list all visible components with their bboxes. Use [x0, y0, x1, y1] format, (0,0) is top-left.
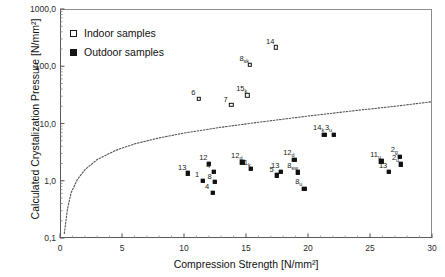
data-point-indoor[interactable] [274, 45, 278, 49]
data-point-outdoor[interactable] [399, 162, 403, 166]
data-point-label: 13 [379, 161, 387, 170]
data-point-label: 13 [178, 162, 186, 171]
data-point-outdoor[interactable] [210, 190, 214, 194]
data-point-label: 15k [236, 84, 247, 95]
data-point-outdoor[interactable] [332, 132, 336, 136]
open-square-icon [70, 30, 77, 37]
x-tick-label: 25 [365, 243, 374, 253]
x-axis-title: Compression Strength [N/mm²] [60, 258, 432, 270]
x-tick-label: 20 [303, 243, 312, 253]
x-tick-label: 30 [427, 243, 436, 253]
scatter-chart: 0,11,010,0100,01000,0 678sk1415k13112484… [0, 0, 445, 277]
data-point-label: 8 [207, 171, 211, 180]
data-point-indoor[interactable] [229, 103, 233, 107]
y-tick-label: 0,1 [44, 233, 56, 243]
data-point-label: 2u [392, 152, 399, 163]
data-point-outdoor[interactable] [302, 187, 306, 191]
legend-item-outdoor: Outdoor samples [70, 46, 164, 58]
x-tick-label: 15 [241, 243, 250, 253]
y-axis-tick-labels: 0,11,010,0100,01000,0 [0, 0, 56, 277]
data-point-label: 8sw [287, 161, 298, 172]
filled-square-icon [70, 49, 77, 56]
data-point-label: 12d [283, 148, 294, 159]
data-point-label: 7 [224, 94, 228, 103]
legend-label-indoor: Indoor samples [84, 27, 156, 39]
y-tick-label: 10,0 [39, 119, 56, 129]
data-point-label: 14 [266, 36, 274, 45]
data-point-label: 3u [325, 123, 332, 134]
data-point-label: 1 [195, 170, 199, 179]
y-axis-title: Calculated Crystalization Pressure [N/mm… [29, 0, 41, 239]
data-point-label: 8sk [239, 53, 249, 64]
data-point-label: 11k [240, 157, 251, 168]
legend: Indoor samples Outdoor samples [70, 27, 164, 65]
data-point-label: 11u [370, 149, 381, 160]
data-point-outdoor[interactable] [279, 169, 283, 173]
data-point-label: 4 [205, 182, 209, 191]
data-point-outdoor[interactable] [213, 180, 217, 184]
y-tick-label: 1,0 [44, 176, 56, 186]
data-point-label: 6 [191, 88, 195, 97]
data-point-outdoor[interactable] [212, 169, 216, 173]
data-point-label: 14k [313, 123, 324, 134]
data-point-outdoor[interactable] [186, 171, 190, 175]
data-point-label: 4 [206, 161, 210, 170]
legend-label-outdoor: Outdoor samples [84, 46, 164, 58]
data-point-outdoor[interactable] [386, 169, 390, 173]
data-point-indoor[interactable] [197, 97, 201, 101]
x-tick-label: 5 [120, 243, 125, 253]
x-tick-label: 10 [179, 243, 188, 253]
x-tick-label: 0 [58, 243, 63, 253]
data-point-label: 8u [295, 177, 302, 188]
legend-item-indoor: Indoor samples [70, 27, 164, 39]
data-point-label: 13 [271, 161, 279, 170]
